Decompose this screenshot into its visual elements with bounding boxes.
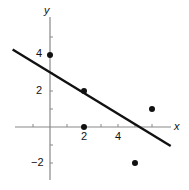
data-point: [47, 52, 53, 58]
scatter-plot: x y 2 4 4 2 −2: [0, 0, 189, 190]
data-point: [81, 124, 87, 130]
y-tick-label-2: 2: [36, 84, 42, 96]
x-tick-label-4: 4: [115, 130, 121, 142]
data-point: [149, 106, 155, 112]
data-points: [47, 52, 155, 166]
x-axis-label: x: [173, 120, 180, 132]
regression-line: [13, 50, 171, 146]
x-tick-label-2: 2: [81, 130, 87, 142]
y-tick-label-neg2: −2: [31, 156, 44, 168]
fitted-line: [13, 50, 171, 146]
y-axis-label: y: [43, 4, 51, 16]
data-point: [132, 160, 138, 166]
data-point: [81, 88, 87, 94]
y-tick-label-4: 4: [36, 47, 42, 59]
